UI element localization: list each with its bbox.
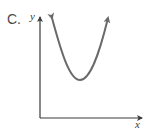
graph — [0, 0, 146, 130]
parabola-curve — [52, 18, 108, 80]
